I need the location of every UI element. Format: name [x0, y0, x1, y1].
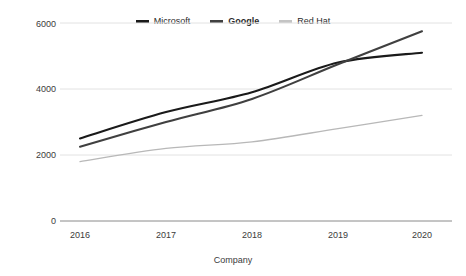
line-chart: Microsoft Google Red Hat 6000 4000 2000 …	[0, 0, 466, 276]
gridlines	[60, 23, 452, 221]
plot-area	[0, 0, 466, 276]
series-lines	[80, 31, 422, 161]
series-line-microsoft	[80, 53, 422, 139]
